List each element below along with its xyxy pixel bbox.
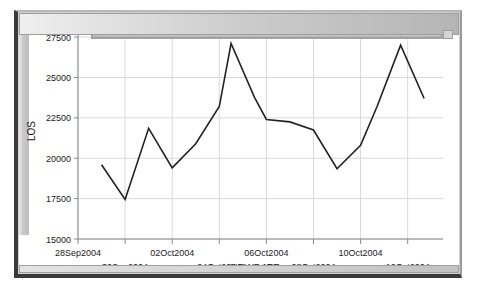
- plot-frame: [78, 29, 443, 239]
- y-axis-tick-label: 20000: [46, 154, 71, 164]
- vertical-scrollbar-endcap[interactable]: [19, 265, 459, 273]
- vertical-scrollbar-thumb[interactable]: [19, 13, 459, 35]
- x-axis-tick-label: 02Oct2004: [150, 248, 194, 258]
- x-axis-tick-label: 06Oct2004: [244, 248, 288, 258]
- line-chart: 150001750020000225002500027500 28Sep2004…: [19, 13, 465, 279]
- x-axis-tick-label: 28Sep2004: [55, 248, 101, 258]
- y-axis-tick-label: 25000: [46, 73, 71, 83]
- y-axis-tick-label: 22500: [46, 113, 71, 123]
- y-axis-title: LOS: [26, 121, 37, 141]
- plot-gridlines: [78, 29, 443, 239]
- y-axis-tick-label: 17500: [46, 194, 71, 204]
- chart-window-inner: 150001750020000225002500027500 28Sep2004…: [18, 12, 460, 274]
- data-series-line: [102, 44, 425, 200]
- y-axis-tick-labels: 150001750020000225002500027500: [46, 33, 71, 245]
- chart-window-frame: 150001750020000225002500027500 28Sep2004…: [14, 10, 462, 278]
- scrollbar-corner: [443, 30, 453, 39]
- x-axis-tick-label: 10Oct2004: [339, 248, 383, 258]
- x-axis-ticks: [78, 239, 408, 244]
- y-axis-tick-label: 15000: [46, 235, 71, 245]
- y-axis-ticks: [74, 37, 78, 239]
- screenshot-root: 150001750020000225002500027500 28Sep2004…: [0, 0, 481, 304]
